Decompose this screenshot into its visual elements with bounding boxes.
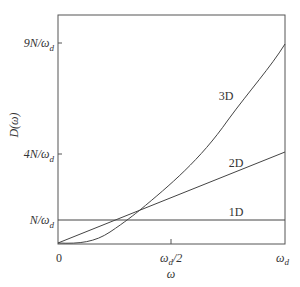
xtick-label-full: ωd: [276, 251, 289, 267]
series-label-1d: 1D: [229, 205, 244, 219]
plot-frame: [58, 15, 285, 244]
series-2d: [58, 152, 285, 243]
series-label-3d: 3D: [219, 89, 234, 103]
ytick-label-4: 4N/ωd: [24, 147, 55, 164]
ytick-label-9: 9N/ωd: [24, 36, 55, 53]
x-axis-label: ω: [167, 267, 175, 281]
y-axis-label: D(ω): [7, 112, 21, 138]
series-label-2d: 2D: [229, 156, 244, 170]
series-3d: [58, 44, 285, 243]
xtick-label-0: 0: [56, 251, 62, 265]
xtick-label-half: ωd/2: [160, 251, 182, 267]
ytick-label-1: N/ωd: [29, 213, 55, 230]
dos-chart: 9N/ωd 4N/ωd N/ωd D(ω) 0 ωd/2 ωd ω 3D 2D …: [0, 0, 300, 287]
